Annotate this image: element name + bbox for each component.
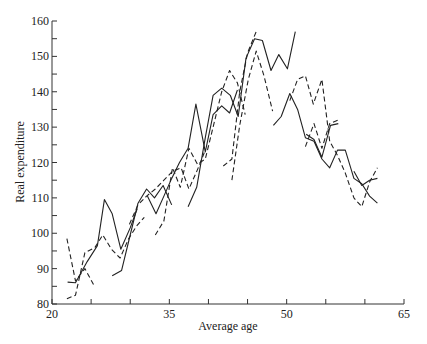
series-line-cohort-F	[147, 90, 237, 214]
y-axis-title: Real expenditure	[13, 121, 27, 203]
series-line-cohort-G	[155, 71, 245, 236]
y-tick-label: 160	[31, 14, 49, 28]
plot-lines	[67, 32, 378, 299]
y-tick-label: 110	[31, 191, 49, 205]
y-tick-label: 140	[31, 85, 49, 99]
x-tick-label: 50	[281, 307, 293, 321]
x-tick-label: 35	[163, 307, 175, 321]
series-line-cohort-C	[67, 217, 144, 298]
series-line-cohort-I	[223, 32, 256, 166]
y-ticks: 8090100110120130140150160	[31, 14, 57, 311]
x-ticks: 20355065	[46, 299, 410, 321]
x-tick-label: 65	[398, 307, 410, 321]
y-tick-label: 100	[31, 226, 49, 240]
series-line-cohort-A	[68, 200, 138, 283]
series-line-cohort-B	[67, 239, 94, 285]
x-tick-label: 20	[46, 307, 58, 321]
cohort-expenditure-chart: 8090100110120130140150160 20355065 Avera…	[0, 0, 427, 344]
series-line-cohort-K	[273, 94, 377, 204]
y-tick-label: 150	[31, 49, 49, 63]
x-axis-title: Average age	[198, 319, 257, 333]
y-tick-label: 90	[37, 262, 49, 276]
y-tick-label: 120	[31, 156, 49, 170]
y-tick-label: 130	[31, 120, 49, 134]
